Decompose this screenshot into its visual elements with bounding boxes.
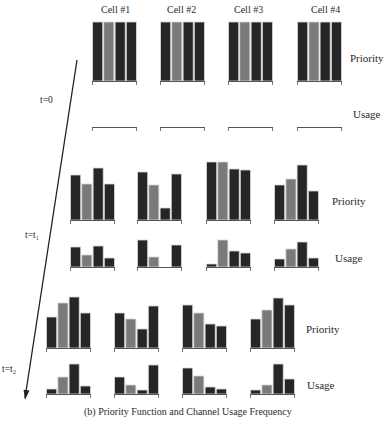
bar-usage-t2-cell3-ch1 — [183, 368, 193, 394]
bar-priority-t1-cell2-ch2 — [149, 185, 159, 220]
bar-priority-t1-cell2-ch1 — [138, 172, 148, 220]
bar-usage-t1-cell2-ch2 — [149, 257, 159, 267]
bar-priority-t0-cell1-ch4 — [126, 22, 136, 81]
time-label-t1: t=t₁ — [25, 230, 39, 240]
bar-usage-t1-cell3-ch4 — [240, 253, 250, 267]
bar-priority-t0-cell3-ch2 — [240, 22, 250, 81]
figure-canvas — [0, 0, 388, 434]
row-label-priority-t0: Priority — [350, 52, 384, 64]
row-label-priority-t1: Priority — [332, 195, 366, 207]
bar-usage-t1-cell1-ch2 — [82, 255, 92, 267]
bar-priority-t0-cell3-ch4 — [262, 22, 272, 81]
bar-usage-t2-cell1-ch2 — [58, 377, 68, 394]
bar-usage-t2-cell4-ch4 — [284, 379, 294, 394]
bar-priority-t2-cell3-ch1 — [183, 305, 193, 348]
bar-priority-t2-cell4-ch4 — [284, 305, 294, 348]
bar-usage-t2-cell2-ch1 — [115, 377, 125, 394]
bar-priority-t1-cell4-ch4 — [308, 191, 318, 220]
bar-usage-t1-cell3-ch1 — [207, 264, 217, 267]
cell-title-1: Cell #1 — [101, 4, 130, 15]
figure-caption: (b) Priority Function and Channel Usage … — [84, 406, 292, 417]
bar-usage-t2-cell1-ch3 — [69, 364, 79, 394]
bar-usage-t1-cell2-ch4 — [171, 245, 181, 267]
time-arrow-head-icon — [24, 390, 30, 400]
bar-usage-t1-cell3-ch2 — [218, 240, 228, 267]
bar-usage-t2-cell4-ch3 — [273, 364, 283, 394]
bar-priority-t2-cell4-ch3 — [273, 298, 283, 348]
bar-priority-t0-cell3-ch3 — [251, 22, 261, 81]
bar-usage-t2-cell3-ch2 — [194, 376, 204, 394]
bar-priority-t0-cell3-ch1 — [229, 22, 239, 81]
row-label-usage-t0: Usage — [353, 108, 381, 120]
bar-usage-t2-cell1-ch4 — [80, 386, 90, 394]
bar-priority-t1-cell1-ch4 — [104, 184, 114, 220]
bar-priority-t2-cell3-ch3 — [205, 324, 215, 348]
bar-usage-t2-cell2-ch2 — [126, 385, 136, 394]
bar-usage-t1-cell2-ch1 — [138, 240, 148, 267]
bar-priority-t2-cell2-ch4 — [148, 306, 158, 348]
bar-priority-t2-cell4-ch2 — [262, 310, 272, 348]
bar-priority-t2-cell2-ch2 — [126, 319, 136, 348]
bar-usage-t2-cell1-ch1 — [47, 389, 57, 394]
bar-priority-t0-cell1-ch2 — [104, 22, 114, 81]
time-label-t0: t=0 — [40, 95, 53, 105]
cell-title-3: Cell #3 — [234, 4, 263, 15]
bar-priority-t1-cell4-ch1 — [275, 185, 285, 220]
bar-priority-t1-cell2-ch3 — [160, 208, 170, 220]
bar-priority-t2-cell2-ch1 — [115, 313, 125, 348]
priority-usage-figure: Cell #1 Cell #2 Cell #3 Cell #4 t=0 t=t₁… — [0, 0, 388, 434]
bar-priority-t0-cell4-ch3 — [320, 22, 330, 81]
bar-priority-t2-cell1-ch1 — [47, 317, 57, 348]
bar-priority-t2-cell1-ch3 — [69, 297, 79, 348]
bar-priority-t1-cell4-ch2 — [286, 179, 296, 220]
bar-usage-t1-cell1-ch4 — [104, 258, 114, 267]
bar-priority-t1-cell1-ch3 — [93, 168, 103, 220]
bar-priority-t2-cell4-ch1 — [251, 319, 261, 348]
bar-priority-t1-cell3-ch2 — [218, 162, 228, 220]
bar-usage-t1-cell1-ch1 — [71, 247, 81, 267]
bar-priority-t0-cell2-ch1 — [161, 22, 171, 81]
bar-priority-t2-cell3-ch2 — [194, 313, 204, 348]
bar-usage-t1-cell4-ch4 — [308, 258, 318, 267]
bar-priority-t0-cell4-ch2 — [309, 22, 319, 81]
bar-usage-t1-cell4-ch2 — [286, 249, 296, 267]
bar-priority-t0-cell1-ch3 — [115, 22, 125, 81]
bar-usage-t1-cell3-ch3 — [229, 251, 239, 267]
bar-priority-t0-cell2-ch3 — [183, 22, 193, 81]
bar-usage-t2-cell4-ch2 — [262, 385, 272, 394]
bar-usage-t2-cell4-ch1 — [251, 390, 261, 394]
bar-priority-t2-cell2-ch3 — [137, 329, 147, 348]
bar-usage-t1-cell4-ch1 — [275, 259, 285, 267]
bar-priority-t2-cell1-ch4 — [80, 313, 90, 348]
bar-usage-t2-cell3-ch4 — [216, 389, 226, 394]
bar-priority-t1-cell3-ch3 — [229, 169, 239, 220]
cell-title-2: Cell #2 — [167, 4, 196, 15]
bar-priority-t1-cell3-ch4 — [240, 170, 250, 220]
row-label-usage-t2: Usage — [307, 379, 335, 391]
bar-priority-t1-cell1-ch1 — [71, 175, 81, 220]
bar-priority-t1-cell1-ch2 — [82, 184, 92, 220]
bar-priority-t2-cell1-ch2 — [58, 303, 68, 348]
bar-usage-t2-cell3-ch3 — [205, 387, 215, 394]
cell-title-4: Cell #4 — [311, 4, 340, 15]
bar-priority-t0-cell4-ch1 — [298, 22, 308, 81]
bar-priority-t0-cell2-ch2 — [172, 22, 182, 81]
bar-priority-t1-cell4-ch3 — [297, 165, 307, 220]
bar-priority-t0-cell1-ch1 — [93, 22, 103, 81]
bar-priority-t0-cell4-ch4 — [331, 22, 341, 81]
bar-usage-t2-cell2-ch3 — [137, 390, 147, 394]
row-label-usage-t1: Usage — [335, 252, 363, 264]
bar-priority-t0-cell2-ch4 — [194, 22, 204, 81]
time-label-t2: t=t₂ — [2, 364, 16, 374]
bar-priority-t1-cell2-ch4 — [171, 174, 181, 220]
bar-priority-t1-cell3-ch1 — [207, 162, 217, 220]
bar-usage-t2-cell2-ch4 — [148, 365, 158, 394]
bar-usage-t1-cell1-ch3 — [93, 246, 103, 267]
bar-usage-t1-cell4-ch3 — [297, 242, 307, 267]
row-label-priority-t2: Priority — [306, 323, 340, 335]
bar-priority-t2-cell3-ch4 — [216, 326, 226, 348]
